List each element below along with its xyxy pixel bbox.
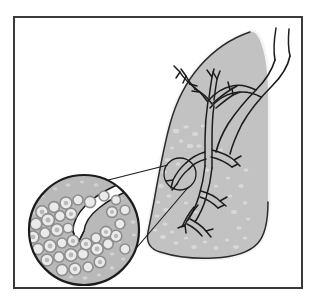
lung-illustration bbox=[0, 0, 317, 303]
illustration-canvas bbox=[0, 0, 317, 303]
alveoli-inset-group bbox=[27, 175, 140, 285]
